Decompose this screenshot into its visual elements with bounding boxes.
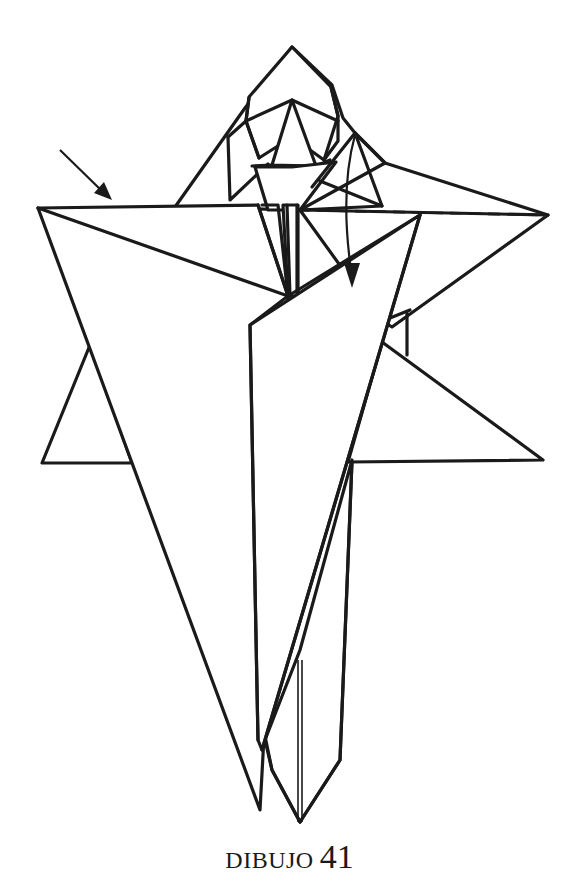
left-front-flap (38, 205, 288, 810)
figure-caption: DIBUJO41 (0, 838, 579, 876)
caption-number: 41 (320, 838, 354, 875)
origami-diagram (0, 0, 579, 887)
caption-word: DIBUJO (225, 847, 313, 873)
push-arrow-icon (60, 150, 112, 200)
